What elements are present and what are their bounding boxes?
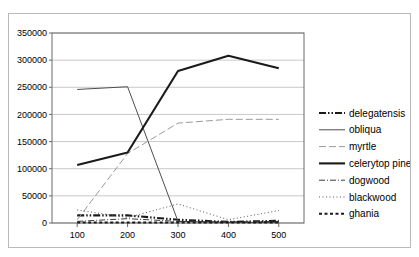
y-tick-label: 50000 [22, 191, 47, 201]
chart-frame: 0500001000001500002000002500003000003500… [8, 13, 411, 248]
x-axis-tick-marks [77, 223, 279, 227]
legend-label-delegatensis: delegatensis [349, 108, 405, 119]
data-series-group [77, 56, 279, 223]
plot-area-border [52, 33, 304, 223]
y-tick-label: 200000 [17, 110, 47, 120]
y-axis-tick-labels: 0500001000001500002000002500003000003500… [17, 28, 52, 228]
x-axis-tick-labels: 100200300400500 [70, 230, 287, 240]
series-line-obliqua [77, 87, 279, 223]
legend-label-celerytop-pine: celerytop pine [349, 158, 410, 169]
chart-plot-svg: 0500001000001500002000002500003000003500… [9, 14, 410, 247]
legend-label-blackwood: blackwood [349, 192, 396, 203]
y-tick-label: 350000 [17, 28, 47, 38]
series-line-myrtle [77, 119, 279, 219]
y-tick-label: 300000 [17, 55, 47, 65]
x-tick-label: 100 [70, 230, 85, 240]
y-tick-label: 150000 [17, 137, 47, 147]
y-tick-label: 250000 [17, 82, 47, 92]
x-tick-label: 400 [221, 230, 236, 240]
x-tick-label: 200 [120, 230, 135, 240]
legend-label-ghania: ghania [349, 208, 379, 219]
gridlines-group [52, 33, 304, 223]
chart-legend: delegatensisobliquamyrtlecelerytop pined… [319, 108, 410, 220]
legend-label-dogwood: dogwood [349, 175, 390, 186]
legend-label-obliqua: obliqua [349, 124, 382, 135]
y-tick-label: 100000 [17, 164, 47, 174]
x-tick-label: 500 [271, 230, 286, 240]
x-tick-label: 300 [170, 230, 185, 240]
chart-container: 0500001000001500002000002500003000003500… [0, 0, 419, 257]
y-tick-label: 0 [42, 218, 47, 228]
series-line-celerytop-pine [77, 56, 279, 165]
series-line-blackwood [77, 204, 279, 220]
plot-border-rect [52, 33, 304, 223]
legend-label-myrtle: myrtle [349, 141, 377, 152]
